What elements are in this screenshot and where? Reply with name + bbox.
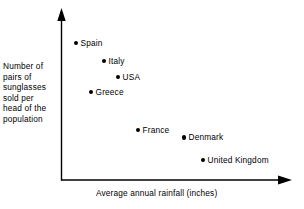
point-marker [74, 41, 78, 45]
point-marker [102, 59, 106, 63]
data-point-france: France [136, 126, 169, 135]
point-marker [116, 75, 120, 79]
point-marker [136, 128, 140, 132]
point-label: USA [123, 73, 141, 82]
data-point-greece: Greece [89, 88, 124, 97]
point-label: Denmark [189, 133, 224, 142]
y-axis-label: Number of pairs of sunglasses sold per h… [3, 61, 59, 125]
point-label: United Kingdom [208, 156, 269, 165]
data-point-italy: Italy [102, 57, 125, 66]
data-point-spain: Spain [74, 39, 103, 48]
point-label: Greece [96, 88, 124, 97]
y-axis-arrowhead [57, 8, 65, 21]
x-axis-arrowhead [278, 175, 292, 184]
scatter-chart: Number of pairs of sunglasses sold per h… [0, 0, 304, 209]
data-point-denmark: Denmark [182, 133, 223, 142]
point-marker [201, 158, 205, 162]
point-marker [182, 135, 186, 139]
point-marker [89, 90, 93, 94]
x-axis-label: Average annual rainfall (inches) [96, 188, 246, 199]
point-label: France [143, 126, 170, 135]
data-point-usa: USA [116, 73, 140, 82]
point-label: Italy [109, 57, 125, 66]
data-point-united-kingdom: United Kingdom [201, 156, 269, 165]
point-label: Spain [81, 39, 103, 48]
